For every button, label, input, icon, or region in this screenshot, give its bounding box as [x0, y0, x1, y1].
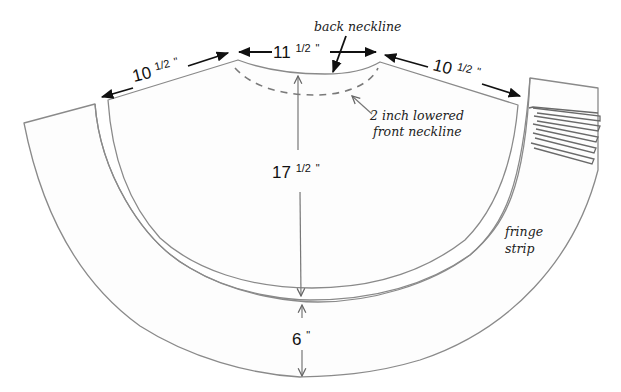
- left-shoulder-whole: 10: [130, 63, 153, 86]
- neck-width-fraction: 1/2: [295, 42, 310, 54]
- body-length-fraction: 1/2: [296, 162, 311, 174]
- body-length-whole: 17: [272, 163, 291, 182]
- svg-text:11 1/2 ": 11 1/2 ": [273, 37, 319, 62]
- left-shoulder-unit: ": [173, 55, 180, 68]
- back-neckline-label: back neckline: [314, 19, 401, 34]
- front-neckline-label-2: front neckline: [372, 124, 462, 139]
- fringe-label-2: strip: [505, 241, 534, 256]
- right-shoulder-whole: 10: [431, 55, 454, 78]
- left-shoulder-fraction: 1/2: [153, 57, 171, 72]
- dimension-neck-width: 11 1/2 ": [239, 37, 376, 62]
- front-neckline-label-1: 2 inch lowered: [369, 108, 464, 123]
- neck-width-unit: ": [315, 42, 319, 54]
- neck-width-whole: 11: [273, 43, 291, 62]
- fringe-width-whole: 6: [292, 330, 301, 349]
- fringe-width-unit: ": [306, 329, 310, 341]
- right-shoulder-fraction: 1/2: [456, 60, 474, 75]
- cape-pattern-diagram: 10 1/2 " 11 1/2 " 10 1/2 " 17 1/2 ": [0, 0, 621, 392]
- right-shoulder-unit: ": [475, 65, 482, 78]
- fringe-label-1: fringe: [504, 224, 543, 239]
- body-length-unit: ": [316, 162, 320, 174]
